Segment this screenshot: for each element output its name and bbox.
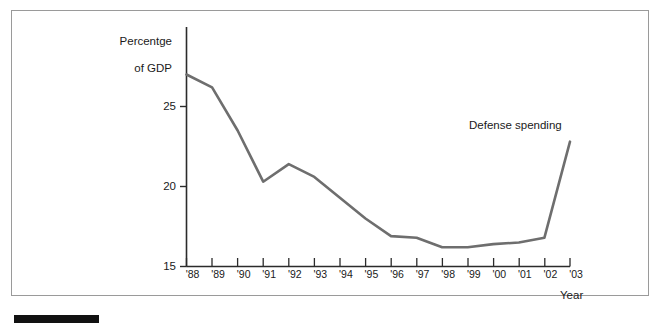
y-tick-label-20: 20 bbox=[150, 180, 176, 192]
data-line-defense-spending bbox=[187, 75, 571, 248]
x-tick-label-02: '02 bbox=[537, 268, 563, 280]
x-tick-marks bbox=[187, 258, 571, 267]
x-tick-label-00: '00 bbox=[486, 268, 512, 280]
x-tick-label-01: '01 bbox=[512, 268, 538, 280]
x-tick-label-91: '91 bbox=[256, 268, 282, 280]
x-tick-label-89: '89 bbox=[205, 268, 231, 280]
y-axis-title-line1: Percentge bbox=[120, 35, 172, 47]
x-tick-label-97: '97 bbox=[410, 268, 436, 280]
x-tick-label-93: '93 bbox=[307, 268, 333, 280]
x-tick-label-99: '99 bbox=[461, 268, 487, 280]
x-tick-label-88: '88 bbox=[180, 268, 206, 280]
x-tick-label-92: '92 bbox=[282, 268, 308, 280]
y-tick-label-15: 15 bbox=[150, 260, 176, 272]
y-axis-title-line2: of GDP bbox=[134, 62, 172, 74]
series-annotation-defense-spending: Defense spending bbox=[469, 119, 562, 131]
x-tick-label-98: '98 bbox=[435, 268, 461, 280]
y-tick-label-25: 25 bbox=[150, 100, 176, 112]
caption-bar bbox=[14, 315, 99, 323]
x-tick-label-90: '90 bbox=[231, 268, 257, 280]
x-tick-label-03: '03 bbox=[563, 268, 589, 280]
x-axis-title: Year bbox=[560, 289, 620, 303]
y-tick-marks bbox=[180, 107, 187, 267]
y-axis-title: Percentge of GDP bbox=[86, 21, 172, 75]
x-tick-label-94: '94 bbox=[333, 268, 359, 280]
figure-root: Percentge of GDP Year 152025 '88'89'90'9… bbox=[0, 0, 660, 328]
x-tick-label-96: '96 bbox=[384, 268, 410, 280]
x-tick-label-95: '95 bbox=[358, 268, 384, 280]
